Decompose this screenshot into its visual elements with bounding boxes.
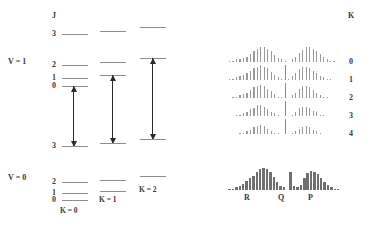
spectrum-line bbox=[302, 67, 303, 80]
spectrum-line bbox=[257, 67, 258, 80]
spectrum-line bbox=[309, 87, 310, 98]
spectrum-line bbox=[274, 94, 275, 98]
spectrum-line bbox=[306, 126, 307, 134]
spectrum-line bbox=[253, 87, 254, 98]
level-v0-k1-j3 bbox=[100, 143, 126, 144]
spectrum-line bbox=[292, 133, 293, 134]
spectrum-line bbox=[267, 68, 268, 80]
spectrum-line bbox=[232, 61, 233, 62]
spectrum-line bbox=[239, 95, 240, 98]
spectrum-line bbox=[306, 67, 307, 80]
j-label-upper-3: 3 bbox=[52, 30, 56, 38]
spectrum-line bbox=[264, 126, 265, 134]
k-stack-label-0: K = 0 bbox=[60, 207, 78, 215]
spectrum-line bbox=[236, 115, 237, 116]
band-bar bbox=[249, 178, 251, 190]
spectrum-line bbox=[271, 91, 272, 98]
level-v1-k1-j3 bbox=[100, 31, 126, 32]
spectrum-line bbox=[333, 61, 334, 62]
band-bar bbox=[252, 176, 254, 190]
spectrum-line bbox=[236, 77, 237, 80]
spectrum-line bbox=[246, 93, 247, 98]
band-bar bbox=[276, 182, 278, 190]
band-bar bbox=[306, 173, 308, 190]
spectrum-line bbox=[281, 97, 282, 98]
spectrum-line bbox=[246, 112, 247, 116]
spectrum-line bbox=[239, 76, 240, 80]
level-v0-k0-j3 bbox=[62, 146, 88, 147]
spectrum-line bbox=[246, 73, 247, 80]
spectrum-line bbox=[302, 107, 303, 116]
vib-state-upper-label: V = 1 bbox=[8, 58, 26, 66]
spectrum-line bbox=[285, 65, 286, 80]
spectrum-line bbox=[274, 113, 275, 116]
spectrum-line bbox=[271, 51, 272, 62]
j-label-lower-3: 3 bbox=[52, 142, 56, 150]
band-bar bbox=[293, 186, 295, 190]
spectrum-line bbox=[309, 68, 310, 80]
band-bar bbox=[235, 187, 237, 190]
spectrum-line bbox=[309, 108, 310, 116]
level-v1-k2-j3 bbox=[140, 27, 166, 28]
band-bar bbox=[334, 189, 336, 190]
spectrum-line bbox=[313, 49, 314, 62]
spectrum-line bbox=[229, 61, 230, 62]
spectrum-line bbox=[292, 115, 293, 116]
spectrum-line bbox=[323, 57, 324, 62]
spectrum-line bbox=[278, 58, 279, 62]
spectrum-line bbox=[306, 86, 307, 98]
band-bar bbox=[259, 169, 261, 190]
k-right-label-2: 2 bbox=[349, 94, 353, 102]
k-stack-label-2: K = 2 bbox=[139, 186, 157, 194]
band-bar bbox=[262, 168, 264, 190]
spectrum-line bbox=[313, 111, 314, 116]
spectrum-line bbox=[316, 131, 317, 134]
spectrum-line bbox=[299, 129, 300, 134]
spectrum-line bbox=[295, 93, 296, 98]
branch-label-p: P bbox=[308, 194, 313, 202]
spectrum-line bbox=[264, 107, 265, 116]
spectrum-line bbox=[274, 133, 275, 134]
spectrum-line bbox=[267, 49, 268, 62]
spectrum-line bbox=[288, 79, 289, 80]
transition-arrow-k0 bbox=[73, 86, 74, 146]
spectrum-line bbox=[243, 94, 244, 98]
spectrum-line bbox=[309, 127, 310, 134]
branch-label-q: Q bbox=[278, 194, 284, 202]
spectrum-line bbox=[278, 77, 279, 80]
spectrum-line bbox=[306, 107, 307, 116]
spectrum-line bbox=[260, 65, 261, 80]
spectrum-line bbox=[253, 108, 254, 116]
spectrum-line bbox=[281, 59, 282, 62]
spectrum-line bbox=[281, 79, 282, 80]
j-label-v0-2: 2 bbox=[52, 178, 56, 186]
spectrum-row-k0 bbox=[228, 46, 336, 62]
spectrum-line bbox=[327, 79, 328, 80]
band-bar bbox=[232, 189, 234, 190]
spectrum-line bbox=[285, 119, 286, 134]
level-v1-k0-j1 bbox=[62, 78, 88, 79]
j-label-upper-2: 2 bbox=[52, 61, 56, 69]
spectrum-line bbox=[313, 130, 314, 134]
spectrum-line bbox=[320, 95, 321, 98]
band-bar bbox=[273, 177, 275, 190]
spectrum-line bbox=[299, 53, 300, 62]
spectrum-line bbox=[250, 109, 251, 116]
level-v0-k0-j2 bbox=[62, 182, 88, 183]
band-bar bbox=[330, 187, 332, 190]
k-right-label-1: 1 bbox=[349, 76, 353, 84]
spectrum-line bbox=[295, 57, 296, 62]
spectrum-line bbox=[299, 108, 300, 116]
spectrum-row-k4 bbox=[228, 118, 336, 134]
spectrum-line bbox=[250, 90, 251, 98]
spectrum-line bbox=[330, 61, 331, 62]
axis-title-j: J bbox=[52, 12, 56, 20]
band-bar bbox=[303, 178, 305, 190]
spectrum-line bbox=[313, 90, 314, 98]
energy-level-spectra-figure: J K V = 1 V = 0 3 2 1 0 3 2 1 0 K = 0 K … bbox=[0, 0, 371, 235]
band-bar bbox=[313, 172, 315, 190]
spectrum-line bbox=[229, 79, 230, 80]
k-right-label-0: 0 bbox=[349, 58, 353, 66]
band-bar bbox=[266, 169, 268, 190]
spectrum-line bbox=[278, 115, 279, 116]
